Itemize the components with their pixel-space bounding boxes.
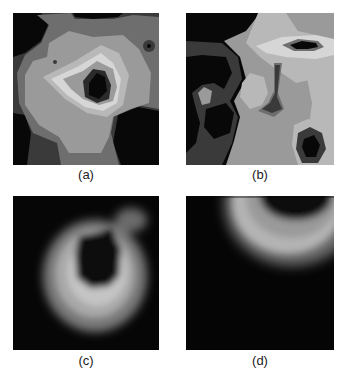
panel-b-label: (b) [230, 168, 290, 182]
contour-map-a [13, 13, 159, 165]
panel-d-label: (d) [230, 354, 290, 368]
panel-a-image [13, 13, 159, 165]
contour-map-b [186, 13, 334, 165]
panel-a-label: (a) [56, 168, 116, 182]
panel-c-image [13, 196, 159, 350]
panel-c-label: (c) [56, 354, 116, 368]
panel-d-image [186, 196, 334, 350]
panel-b-image [186, 13, 334, 165]
intensity-map-c [13, 196, 159, 350]
intensity-map-d [186, 196, 334, 350]
